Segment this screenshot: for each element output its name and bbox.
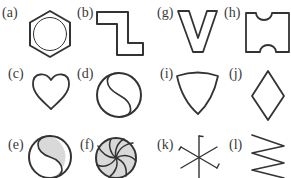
six-spoke-star-icon [179,136,219,178]
reuleaux-triangle-icon [177,73,218,115]
yin-yang-outline-icon [97,73,141,117]
hexagon-icon [30,11,70,57]
shapes-canvas [0,0,291,178]
z-shape-icon [97,12,143,55]
ticket-shape-icon [246,13,289,52]
yin-yang-shaded-icon [29,136,71,178]
pinwheel-icon [96,138,136,178]
v-shape-icon [178,11,217,52]
diamond-icon [252,71,284,120]
zigzag-spring-icon [252,135,284,178]
shapes-figure: (a) (b) (g) (h) (c) (d) (i) (j) (e) (f) … [0,0,291,178]
heart-icon [33,74,69,109]
